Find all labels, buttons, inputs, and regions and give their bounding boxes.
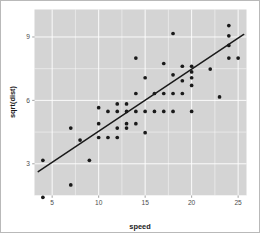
data-point (97, 122, 101, 126)
data-point (125, 122, 129, 126)
data-point (162, 92, 166, 96)
data-point (236, 56, 240, 60)
data-point (190, 64, 194, 68)
data-point (190, 84, 194, 88)
data-point (227, 34, 231, 38)
data-point (208, 67, 212, 71)
data-point (125, 110, 129, 114)
x-tick-label: 10 (95, 199, 103, 206)
data-point (162, 62, 166, 66)
data-point (190, 110, 194, 114)
data-point (180, 79, 184, 83)
data-point (115, 110, 119, 114)
data-point (180, 64, 184, 68)
data-point (134, 122, 138, 126)
data-point (171, 110, 175, 114)
y-axis-title: sqrt(dist) (8, 85, 17, 118)
x-axis-ticks (52, 196, 238, 198)
data-point (227, 44, 231, 48)
data-point (134, 92, 138, 96)
data-point (143, 110, 147, 114)
scatter-plot: 510152025 369 speed sqrt(dist) (1, 1, 260, 233)
data-point (227, 24, 231, 28)
data-point (143, 131, 147, 135)
y-tick-label: 6 (26, 97, 30, 104)
data-point (97, 106, 101, 110)
x-tick-label: 5 (50, 199, 54, 206)
data-point (125, 126, 129, 130)
data-point (41, 159, 45, 163)
data-point (162, 110, 166, 114)
plot-svg: 510152025 369 speed sqrt(dist) (1, 1, 260, 233)
data-point (171, 92, 175, 96)
data-point (97, 136, 101, 140)
data-point (115, 136, 119, 140)
x-tick-label: 20 (188, 199, 196, 206)
x-tick-label: 15 (141, 199, 149, 206)
data-point (115, 102, 119, 106)
figure-frame: 510152025 369 speed sqrt(dist) (0, 0, 260, 233)
data-point (153, 110, 157, 114)
data-point (78, 138, 82, 142)
data-point (190, 70, 194, 74)
y-axis-tick-labels: 369 (26, 33, 30, 167)
y-tick-label: 9 (26, 33, 30, 40)
data-point (171, 73, 175, 77)
data-point (69, 126, 73, 130)
data-point (180, 92, 184, 96)
data-point (190, 76, 194, 80)
x-axis-title: speed (129, 222, 151, 231)
data-point (227, 56, 231, 60)
data-point (88, 159, 92, 163)
data-point (134, 56, 138, 60)
data-point (153, 92, 157, 96)
data-point (106, 136, 110, 140)
data-point (106, 110, 110, 114)
data-point (69, 183, 73, 187)
y-axis-ticks (32, 37, 34, 164)
data-point (41, 195, 45, 199)
data-point (115, 126, 119, 130)
x-axis-tick-labels: 510152025 (50, 199, 242, 206)
data-point (218, 95, 222, 99)
x-tick-label: 25 (234, 199, 242, 206)
data-point (125, 102, 129, 106)
data-point (171, 32, 175, 36)
y-tick-label: 3 (26, 160, 30, 167)
data-point (134, 110, 138, 114)
data-point (143, 76, 147, 80)
